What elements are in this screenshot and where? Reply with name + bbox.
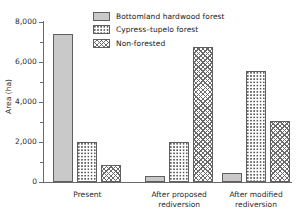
y-tick-label: 4,000 — [0, 97, 37, 106]
y-tick-major — [39, 182, 44, 183]
chart-legend: Bottomland hardwood forestCypress–tupelo… — [93, 10, 225, 51]
legend-item-label: Bottomland hardwood forest — [116, 12, 225, 21]
legend-swatch-icon — [93, 12, 110, 21]
legend-item-label: Cypress–tupelo forest — [116, 25, 198, 34]
legend-swatch-icon — [93, 25, 110, 34]
bar — [193, 47, 213, 182]
y-tick-label: 0 — [0, 177, 37, 186]
bar — [169, 142, 189, 182]
bar — [222, 173, 242, 182]
bar — [77, 142, 97, 182]
legend-item-label: Non-forested — [116, 39, 165, 48]
y-tick-label: 8,000 — [0, 17, 37, 26]
bar-chart: Area (ha) 02,0004,0006,0008,000 PresentA… — [0, 0, 296, 224]
x-axis-group-label: After modifiedrediversion — [206, 190, 296, 209]
x-axis-group-label-line: rediversion — [206, 200, 296, 210]
x-axis-group-label-line: Present — [37, 190, 137, 200]
bar — [246, 71, 266, 182]
x-axis-group-label: Present — [37, 190, 137, 200]
legend-item: Cypress–tupelo forest — [93, 24, 225, 37]
legend-item: Non-forested — [93, 37, 225, 50]
legend-swatch-icon — [93, 39, 110, 48]
x-axis-line — [43, 182, 292, 183]
x-axis-group-label-line: After modified — [206, 190, 296, 200]
bar — [101, 165, 121, 182]
y-tick-label: 6,000 — [0, 57, 37, 66]
bar — [270, 121, 290, 182]
bar — [53, 34, 73, 182]
legend-item: Bottomland hardwood forest — [93, 10, 225, 23]
y-tick-label: 2,000 — [0, 137, 37, 146]
bar — [145, 176, 165, 182]
